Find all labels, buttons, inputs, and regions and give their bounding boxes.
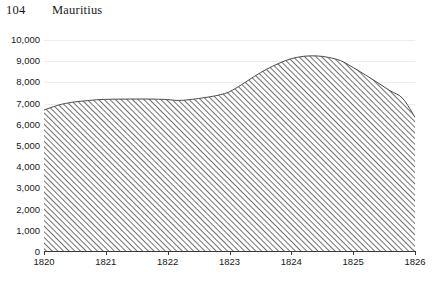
page-number: 104 <box>6 3 25 18</box>
x-tick-label: 1824 <box>269 256 313 267</box>
page-title: Mauritius <box>52 3 102 18</box>
x-tick-mark <box>415 252 416 255</box>
x-tick-mark <box>44 252 45 255</box>
x-tick-mark <box>230 252 231 255</box>
x-tick-label: 1826 <box>393 256 437 267</box>
y-tick-label: 3,000 <box>0 182 40 193</box>
x-tick-mark <box>106 252 107 255</box>
x-tick-mark <box>291 252 292 255</box>
area-fill <box>44 56 415 252</box>
y-tick-label: 6,000 <box>0 119 40 130</box>
y-tick-label: 1,000 <box>0 225 40 236</box>
area-series <box>44 40 415 252</box>
y-tick-label: 8,000 <box>0 76 40 87</box>
x-tick-label: 1822 <box>146 256 190 267</box>
plot-area <box>44 40 415 252</box>
page-header: 104 Mauritius <box>0 0 437 24</box>
y-tick-label: 5,000 <box>0 140 40 151</box>
y-tick-label: 9,000 <box>0 55 40 66</box>
x-tick-label: 1823 <box>208 256 252 267</box>
x-tick-mark <box>168 252 169 255</box>
x-tick-label: 1820 <box>22 256 66 267</box>
y-tick-label: 10,000 <box>0 34 40 45</box>
y-tick-label: 2,000 <box>0 204 40 215</box>
area-chart: 10,0009,0008,0007,0006,0005,0004,0003,00… <box>0 24 437 281</box>
chart-page: 104 Mauritius 10,0009,0008,0007,0006,000… <box>0 0 437 281</box>
x-tick-label: 1821 <box>84 256 128 267</box>
x-tick-mark <box>353 252 354 255</box>
y-tick-label: 4,000 <box>0 161 40 172</box>
x-tick-label: 1825 <box>331 256 375 267</box>
y-tick-label: 7,000 <box>0 98 40 109</box>
